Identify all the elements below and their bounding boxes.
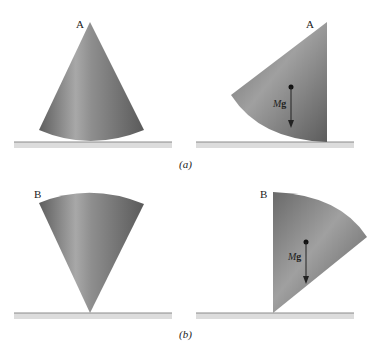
cone-inverted (39, 193, 144, 313)
ground-a-right (196, 142, 354, 148)
force-label-a: Mg (273, 99, 286, 109)
ground-b-right (196, 313, 354, 319)
caption-b: (b) (179, 329, 192, 340)
gravity-symbol: g (281, 98, 286, 109)
cone-upright (39, 22, 144, 141)
ground-b-left (14, 313, 172, 319)
ground-a-left (14, 142, 172, 148)
vertex-label-b-left: B (34, 189, 41, 200)
cone-tipped-a (231, 22, 327, 142)
cone-stability-diagram (0, 0, 385, 344)
caption-a: (a) (179, 159, 192, 170)
force-label-b: Mg (288, 252, 301, 262)
vertex-label-b-right: B (260, 189, 267, 200)
vertex-label-a-left: A (76, 19, 84, 30)
vertex-label-a-right: A (306, 19, 314, 30)
gravity-symbol: g (296, 251, 301, 262)
